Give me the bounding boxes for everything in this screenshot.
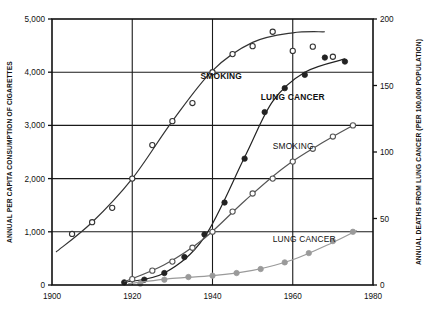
data-point-marker <box>350 123 355 128</box>
data-point-marker <box>234 270 239 275</box>
series-label-1: LUNG CANCER <box>261 92 325 102</box>
data-point-marker <box>162 277 167 282</box>
data-point-marker <box>322 55 327 60</box>
series-label-3: LUNG CANCER <box>273 234 336 244</box>
x-tick-label: 1900 <box>43 292 62 301</box>
data-point-marker <box>162 270 167 275</box>
data-point-marker <box>302 72 307 77</box>
data-point-marker <box>250 191 255 196</box>
right-tick-label: 200 <box>380 15 394 24</box>
series-lung-cancer <box>122 55 348 285</box>
data-point-marker <box>150 142 155 147</box>
data-point-marker <box>290 159 295 164</box>
data-point-marker <box>282 260 287 265</box>
data-point-marker <box>210 229 215 234</box>
left-axis-title: ANNUAL PER CAPITA CONSUMPTION OF CIGARET… <box>6 61 13 243</box>
left-tick-label: 3,000 <box>25 121 46 130</box>
data-point-marker <box>190 100 195 105</box>
right-tick-label: 50 <box>380 215 390 224</box>
series-label-2: SMOKING <box>273 141 314 151</box>
left-tick-label: 0 <box>40 281 45 290</box>
data-point-marker <box>170 119 175 124</box>
data-point-marker <box>190 245 195 250</box>
data-point-marker <box>282 85 287 90</box>
tick-labels-layer: 01,0002,0003,0004,0005,00005010015020019… <box>25 15 395 301</box>
data-point-marker <box>250 44 255 49</box>
data-point-marker <box>290 48 295 53</box>
data-point-marker <box>270 176 275 181</box>
data-point-marker <box>150 268 155 273</box>
x-tick-label: 1980 <box>364 292 383 301</box>
data-point-marker <box>242 156 247 161</box>
right-tick-label: 150 <box>380 82 394 91</box>
data-point-marker <box>258 266 263 271</box>
data-point-marker <box>330 134 335 139</box>
data-point-marker <box>330 54 335 59</box>
series-label-0: SMOKING <box>200 71 241 81</box>
series-smoking-lower <box>124 123 355 282</box>
data-point-marker <box>230 209 235 214</box>
data-point-marker <box>342 59 347 64</box>
data-point-marker <box>170 259 175 264</box>
data-point-marker <box>210 273 215 278</box>
series-curve <box>124 125 353 281</box>
data-point-marker <box>110 205 115 210</box>
x-tick-label: 1920 <box>123 292 142 301</box>
x-tick-label: 1960 <box>284 292 303 301</box>
left-tick-label: 5,000 <box>25 15 46 24</box>
data-point-marker <box>130 176 135 181</box>
data-point-marker <box>350 229 355 234</box>
data-point-marker <box>186 274 191 279</box>
right-tick-label: 0 <box>380 281 385 290</box>
data-point-marker <box>230 52 235 57</box>
data-point-marker <box>90 220 95 225</box>
x-tick-label: 1940 <box>203 292 222 301</box>
cigarette-consumption-lung-cancer-chart: 01,0002,0003,0004,0005,00005010015020019… <box>0 0 430 311</box>
data-point-marker <box>262 109 267 114</box>
right-tick-label: 100 <box>380 148 394 157</box>
series-labels-layer: SMOKINGLUNG CANCERSMOKINGLUNG CANCER <box>200 71 335 244</box>
data-point-marker <box>182 254 187 259</box>
data-point-marker <box>222 200 227 205</box>
data-point-marker <box>69 231 74 236</box>
right-axis-title: ANNUAL DEATHS FROM LUNG CANCER (PER 100,… <box>415 39 423 265</box>
data-point-marker <box>306 250 311 255</box>
left-tick-label: 1,000 <box>25 228 46 237</box>
data-point-marker <box>130 277 135 282</box>
data-point-marker <box>270 29 275 34</box>
left-tick-label: 2,000 <box>25 175 46 184</box>
chart-container: 01,0002,0003,0004,0005,00005010015020019… <box>0 0 430 311</box>
data-point-marker <box>310 44 315 49</box>
left-tick-label: 4,000 <box>25 68 46 77</box>
series-layer <box>56 29 357 286</box>
